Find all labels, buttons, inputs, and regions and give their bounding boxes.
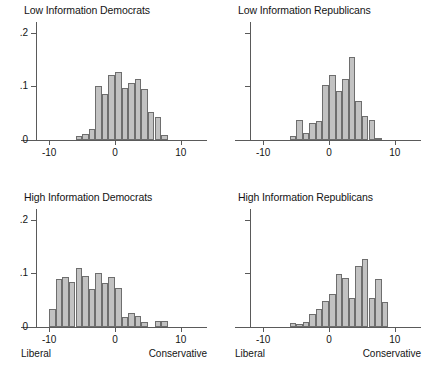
histogram-bar — [362, 259, 369, 327]
x-tick-label: 0 — [326, 147, 332, 158]
x-tick-label: -10 — [42, 147, 56, 158]
x-tick — [329, 327, 330, 332]
x-tick — [329, 140, 330, 145]
y-tick — [31, 140, 36, 141]
histogram-bar — [122, 317, 129, 327]
histogram-bar — [95, 86, 102, 140]
panel-low-information-republicans: Low Information Republicans-10010 — [214, 0, 428, 187]
x-tick — [181, 140, 182, 145]
histogram-bar — [296, 120, 303, 140]
x-tick-label: 10 — [175, 147, 186, 158]
x-tick — [49, 140, 50, 145]
histogram-bar — [128, 83, 135, 140]
histogram-bar — [115, 288, 122, 327]
histogram-bar — [349, 298, 356, 327]
histogram-bar — [369, 298, 376, 327]
histogram-bar — [375, 138, 382, 140]
histogram-bar — [89, 129, 96, 140]
histogram-bar — [290, 323, 297, 327]
x-tick-label: -10 — [256, 147, 270, 158]
x-tick-label: 10 — [389, 147, 400, 158]
histogram-bar — [102, 94, 109, 140]
histogram-bar — [122, 88, 129, 140]
histogram-bar — [342, 278, 349, 327]
x-tick — [181, 327, 182, 332]
histogram-bar — [369, 120, 376, 140]
x-tick-label: 10 — [175, 334, 186, 345]
histogram-bar — [89, 289, 96, 327]
x-tick-label: -10 — [256, 334, 270, 345]
histogram-bar — [290, 136, 297, 140]
histogram-bar — [115, 72, 122, 140]
histogram-bar — [56, 279, 63, 327]
x-tick-label: -10 — [42, 334, 56, 345]
y-tick-label: .1 — [6, 81, 28, 91]
panel-title: High Information Republicans — [238, 191, 373, 203]
x-tick — [263, 327, 264, 332]
histogram-bar — [336, 91, 343, 140]
panel-title: Low Information Republicans — [238, 4, 371, 16]
histogram-bar — [141, 322, 148, 327]
histogram-bar — [82, 276, 89, 327]
axis-end-label-conservative: Conservative — [149, 348, 207, 359]
histogram-bar — [49, 309, 56, 327]
histogram-bar — [316, 121, 323, 140]
histogram-bar — [355, 101, 362, 140]
histogram-bar — [141, 89, 148, 140]
histogram-bar — [316, 309, 323, 327]
histogram-bar — [155, 321, 162, 327]
histogram-bar — [309, 123, 316, 140]
histogram-figure: Low Information Democrats0.1.2-10010Low … — [0, 0, 428, 374]
x-tick — [395, 140, 396, 145]
histogram-bar — [382, 302, 389, 327]
histogram-bars — [250, 22, 408, 140]
histogram-bar — [329, 294, 336, 327]
histogram-bar — [95, 273, 102, 327]
histogram-bar — [128, 313, 135, 327]
histogram-bar — [76, 268, 83, 327]
histogram-bars — [250, 209, 408, 327]
panel-high-information-democrats: High Information Democrats0.1.2-10010Lib… — [0, 187, 214, 374]
y-tick — [245, 140, 250, 141]
histogram-bar — [62, 277, 69, 327]
y-tick-label: 0 — [6, 322, 28, 332]
histogram-bar — [336, 274, 343, 327]
x-tick-label: 0 — [326, 334, 332, 345]
histogram-bar — [161, 321, 168, 327]
y-tick-label: .2 — [6, 215, 28, 225]
axis-end-label-liberal: Liberal — [21, 348, 51, 359]
histogram-bar — [155, 117, 162, 140]
histogram-bar — [342, 79, 349, 140]
x-tick — [115, 327, 116, 332]
panel-high-information-republicans: High Information Republicans-10010Libera… — [214, 187, 428, 374]
x-tick — [115, 140, 116, 145]
histogram-bar — [309, 314, 316, 327]
axis-end-label-liberal: Liberal — [235, 348, 265, 359]
histogram-bars — [36, 209, 194, 327]
panel-title: Low Information Democrats — [24, 4, 150, 16]
histogram-bar — [76, 136, 83, 140]
histogram-bar — [161, 135, 168, 140]
x-tick-label: 10 — [389, 334, 400, 345]
x-tick-label: 0 — [112, 147, 118, 158]
histogram-bar — [135, 316, 142, 327]
histogram-bar — [303, 322, 310, 327]
histogram-bar — [355, 266, 362, 327]
histogram-bar — [322, 301, 329, 327]
histogram-bar — [362, 116, 369, 140]
histogram-bar — [135, 79, 142, 140]
histogram-bar — [102, 283, 109, 327]
x-tick — [395, 327, 396, 332]
histogram-bar — [349, 57, 356, 140]
y-tick-label: .1 — [6, 268, 28, 278]
histogram-bar — [322, 85, 329, 140]
x-tick-label: 0 — [112, 334, 118, 345]
histogram-bar — [82, 134, 89, 140]
histogram-bar — [69, 282, 76, 327]
histogram-bars — [36, 22, 194, 140]
histogram-bar — [375, 279, 382, 327]
axis-end-label-conservative: Conservative — [363, 348, 421, 359]
histogram-bar — [148, 112, 155, 140]
x-tick — [263, 140, 264, 145]
y-tick — [245, 327, 250, 328]
